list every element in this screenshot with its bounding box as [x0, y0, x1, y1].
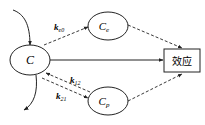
k12-label: k12: [70, 75, 81, 86]
central-label: C: [26, 53, 35, 67]
elimination-arrow: [24, 75, 37, 110]
effect-label: 效应: [172, 55, 192, 67]
k21-label: k21: [56, 91, 67, 102]
edge-effect-compartment-to-effect: [128, 25, 182, 48]
input-arrow: [13, 10, 30, 45]
pk-pd-diagram: C Ce Cp 效应 ke0 k12 k21: [0, 0, 205, 125]
edge-peripheral-to-effect: [128, 74, 182, 101]
ke0-label: ke0: [54, 22, 64, 33]
edge-central-to-effect-compartment: [44, 27, 88, 45]
